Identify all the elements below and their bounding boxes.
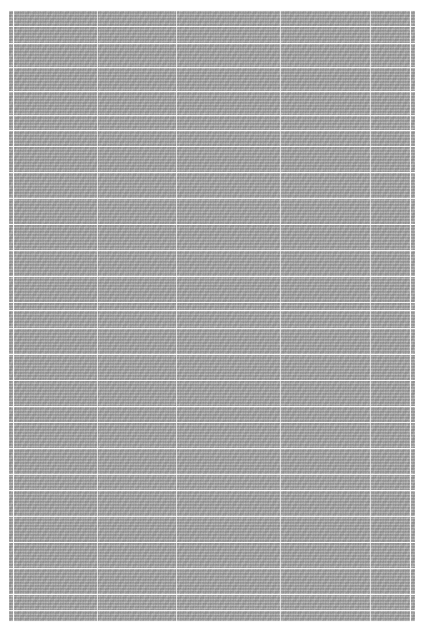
table-column-rule-3: [280, 10, 281, 622]
table-row-rule: [9, 406, 415, 407]
table-row-rule: [9, 380, 415, 381]
table-row-rule: [9, 172, 415, 173]
table-row-rule: [9, 422, 415, 423]
glyph-stroke-texture: [9, 10, 415, 622]
table-row-rule: [9, 224, 415, 225]
table-row-rule: [9, 542, 415, 543]
table-row-rule: [9, 328, 415, 329]
table-row-rule: [9, 516, 415, 517]
table-row-rule: [9, 198, 415, 199]
table-column-rule-1: [97, 10, 98, 622]
scan-grain-texture: [9, 10, 415, 622]
table-row-rule: [9, 610, 415, 611]
table-frame-right-rule: [410, 10, 411, 622]
table-frame-bottom-rule: [9, 621, 415, 622]
table-row-rule: [9, 568, 415, 569]
table-row-rule: [9, 91, 415, 92]
table-row-rule: [9, 354, 415, 355]
table-row-rule: [9, 250, 415, 251]
document-page: [0, 0, 431, 635]
table-row-rule: [9, 115, 415, 116]
table-row-rule: [9, 302, 415, 303]
scanned-content-block: [9, 10, 415, 622]
table-row-rule: [9, 448, 415, 449]
table-column-rule-4: [370, 10, 371, 622]
body-text-texture: [9, 10, 415, 622]
table-row-rule: [9, 67, 415, 68]
table-row-rule: [9, 146, 415, 147]
table-row-rule: [9, 474, 415, 475]
table-row-rule: [9, 490, 415, 491]
table-row-rule: [9, 276, 415, 277]
table-row-rule: [9, 26, 415, 27]
table-row-rule: [9, 310, 415, 311]
table-frame-left-rule: [13, 10, 14, 622]
table-column-rule-2: [176, 10, 177, 622]
table-row-rule: [9, 43, 415, 44]
table-row-rule: [9, 594, 415, 595]
table-frame-top-rule: [9, 10, 415, 11]
table-row-rule: [9, 130, 415, 131]
